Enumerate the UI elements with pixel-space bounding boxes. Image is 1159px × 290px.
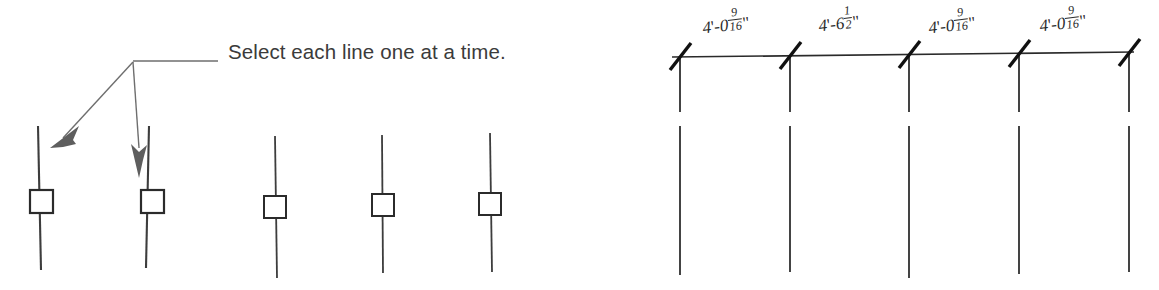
dim-2-fraction: 12	[842, 4, 853, 30]
grip-square-2[interactable]	[141, 190, 164, 213]
dim-4-denominator: 16	[1065, 16, 1081, 31]
dimension-line[interactable]	[672, 52, 1134, 57]
line-selection-diagram: Select each line one at a time.	[0, 0, 600, 290]
leader-arrowhead-left	[50, 126, 79, 148]
dim-1-denominator: 16	[728, 18, 744, 33]
dim-3-denominator: 16	[954, 18, 970, 33]
leader-branch-down	[133, 62, 139, 148]
dim-2-denominator: 2	[844, 17, 854, 31]
grip-square-5[interactable]	[479, 193, 501, 215]
dim-2-numerator: 1	[842, 4, 851, 17]
leader-arrowhead-down	[131, 144, 147, 178]
dim-3-fraction: 916	[952, 6, 969, 33]
drawing-canvas: Select each line one at a time.	[0, 0, 1159, 290]
dim-4-fraction: 916	[1063, 4, 1080, 31]
right-panel-vector	[600, 0, 1159, 290]
dim-1-fraction: 916	[726, 6, 743, 33]
grip-square-3[interactable]	[264, 196, 286, 218]
grip-square-1[interactable]	[30, 190, 53, 213]
dimension-string-diagram: 4'-0916" 4'-612" 4'-0916" 4'-0916"	[600, 0, 1159, 290]
grip-square-4[interactable]	[372, 194, 394, 216]
dimension-label-2[interactable]: 4'-612"	[817, 7, 861, 37]
instruction-text: Select each line one at a time.	[228, 40, 506, 64]
leader-branch-left	[63, 62, 133, 138]
